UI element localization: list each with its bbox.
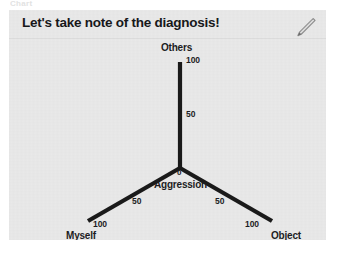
triaxial-chart: Others 100 50 0 Aggression 50 100 Myself… bbox=[9, 39, 326, 240]
cropped-top-text: Chart bbox=[10, 0, 130, 8]
axis-label-others: Others bbox=[161, 42, 192, 53]
center-label-aggression: Aggression bbox=[154, 179, 207, 190]
axis-line-myself bbox=[88, 168, 180, 221]
origin-label: 0 bbox=[177, 168, 181, 177]
tick-object-100: 100 bbox=[245, 219, 259, 229]
axis-line-object bbox=[180, 168, 272, 221]
tick-myself-100: 100 bbox=[93, 219, 107, 229]
axis-label-myself: Myself bbox=[66, 230, 96, 240]
tick-myself-50: 50 bbox=[132, 196, 141, 206]
card-header: Let's take note of the diagnosis! bbox=[9, 10, 326, 39]
slide-card: Let's take note of the diagnosis! Ot bbox=[9, 10, 326, 240]
page-title: Let's take note of the diagnosis! bbox=[22, 15, 220, 30]
tick-others-100: 100 bbox=[186, 55, 200, 65]
tick-object-50: 50 bbox=[215, 196, 224, 206]
axis-label-object: Object bbox=[271, 230, 301, 240]
tick-others-50: 50 bbox=[186, 109, 195, 119]
